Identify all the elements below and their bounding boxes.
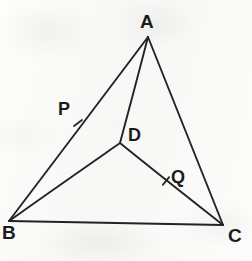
point-label-p: P: [58, 100, 70, 118]
point-label-c: C: [228, 226, 242, 245]
segments-group: [9, 37, 223, 225]
geometry-figure: ABCDPQ: [0, 0, 252, 261]
point-label-b: B: [2, 223, 16, 242]
point-label-d: D: [128, 126, 141, 144]
side-bc: [9, 221, 223, 225]
cevian-bd: [9, 143, 120, 221]
tick-marks-group: [74, 120, 169, 185]
side-ac: [148, 37, 223, 225]
point-label-a: A: [140, 12, 154, 31]
diagram-canvas: [0, 0, 252, 261]
point-label-q: Q: [171, 168, 185, 186]
